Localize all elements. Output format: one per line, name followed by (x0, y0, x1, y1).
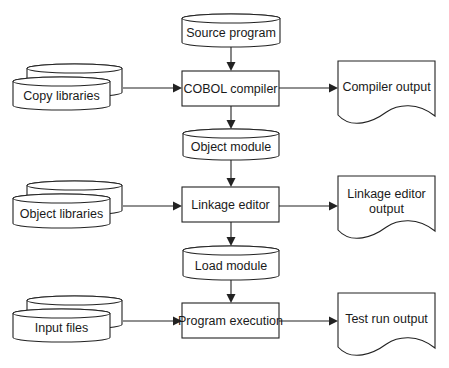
edge-input-files-to-program-execution (123, 317, 182, 326)
arrowhead-icon (227, 237, 236, 246)
edge-load-module-to-program-execution (227, 280, 236, 303)
arrowhead-icon (329, 202, 338, 211)
edge-cobol-compiler-to-compiler-output (279, 84, 338, 93)
node-label: Load module (195, 259, 267, 273)
arrowhead-icon (227, 62, 236, 71)
node-label: Object libraries (20, 207, 103, 221)
arrowhead-icon (227, 120, 236, 129)
node-label: COBOL compiler (183, 82, 277, 96)
edge-linkage-editor-to-load-module (227, 222, 236, 246)
edge-object-module-to-linkage-editor (227, 160, 236, 187)
cylinder-top (183, 129, 279, 138)
arrowhead-icon (173, 84, 182, 93)
node-input-files: Input files (13, 296, 122, 342)
node-label: Program execution (178, 314, 283, 328)
cylinder-top (13, 194, 110, 203)
edge-source-program-to-cobol-compiler (227, 47, 236, 71)
cylinder-top (13, 309, 110, 318)
cylinder-top (27, 181, 122, 190)
node-source-program: Source program (182, 14, 280, 47)
node-object-module: Object module (183, 129, 279, 160)
cylinder-top (182, 14, 280, 23)
edge-cobol-compiler-to-object-module (227, 106, 236, 129)
node-label: Source program (186, 26, 276, 40)
cylinder-top (27, 296, 122, 305)
node-copy-libraries: Copy libraries (13, 64, 122, 110)
arrowhead-icon (329, 84, 338, 93)
edge-linkage-editor-to-linkage-editor-output (279, 202, 338, 211)
node-label: Linkage editor (191, 198, 270, 212)
cobol-development-flow-diagram: Source programCopy librariesCOBOL compil… (0, 0, 449, 368)
cylinder-top (27, 64, 122, 73)
node-label: output (369, 202, 404, 216)
cylinder-top (13, 77, 110, 86)
node-load-module: Load module (183, 246, 279, 280)
edge-program-execution-to-test-run-output (279, 317, 338, 326)
node-linkage-editor-output: Linkage editoroutput (338, 176, 435, 238)
node-label: Input files (35, 321, 89, 335)
node-object-libraries: Object libraries (13, 181, 122, 228)
arrowhead-icon (329, 317, 338, 326)
node-test-run-output: Test run output (338, 293, 435, 355)
node-compiler-output: Compiler output (338, 61, 435, 123)
node-label: Object module (191, 140, 272, 154)
node-label: Test run output (345, 312, 428, 326)
arrowhead-icon (227, 178, 236, 187)
cylinder-top (183, 246, 279, 255)
node-cobol-compiler: COBOL compiler (182, 71, 279, 106)
node-label: Compiler output (342, 80, 431, 94)
edge-copy-libraries-to-cobol-compiler (123, 84, 182, 93)
node-program-execution: Program execution (178, 303, 283, 338)
diagram-canvas: Source programCopy librariesCOBOL compil… (0, 0, 449, 368)
node-label: Copy libraries (23, 89, 99, 103)
edge-object-libraries-to-linkage-editor (123, 202, 182, 211)
arrowhead-icon (227, 294, 236, 303)
node-label: Linkage editor (347, 187, 426, 201)
arrowhead-icon (173, 202, 182, 211)
node-linkage-editor: Linkage editor (182, 187, 279, 222)
nodes-layer: Source programCopy librariesCOBOL compil… (13, 14, 435, 355)
